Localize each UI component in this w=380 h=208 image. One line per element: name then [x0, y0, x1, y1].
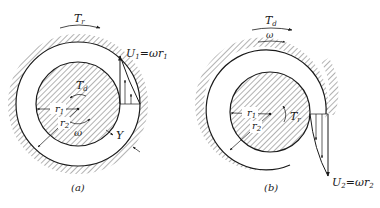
velocity-label: U1=ωr1 [126, 47, 168, 61]
panel-a: Tr Td r1 r2 ω Y U1=ωr1 (a) [12, 12, 168, 193]
gap-arrow-icon [133, 147, 140, 152]
concentric-cylinder-diagram: Tr Td r1 r2 ω Y U1=ωr1 (a) [0, 0, 380, 208]
rotation-label: ω [266, 30, 274, 40]
caption-a: (a) [71, 182, 85, 193]
panel-b: Td ω r1 r2 Tr U2=ωr2 (b) [200, 14, 375, 193]
rotation-label: ω [74, 127, 82, 138]
top-torque-label: Td [265, 14, 277, 28]
top-torque-label: Tr [74, 12, 85, 26]
torque-arrow-icon [60, 25, 100, 28]
velocity-label: U2=ωr2 [332, 176, 374, 190]
caption-b: (b) [264, 182, 278, 193]
